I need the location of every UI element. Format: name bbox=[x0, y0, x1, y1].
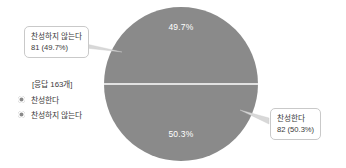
pie-slice-label-agree: 50.3% bbox=[104, 129, 258, 139]
pie-slice-disagree[interactable] bbox=[104, 7, 258, 84]
legend-label-agree: 찬성한다 bbox=[31, 94, 59, 105]
callout-agree-label: 찬성한다 bbox=[277, 113, 314, 124]
legend-swatch-icon bbox=[18, 111, 25, 118]
pie-chart: 49.7% 50.3% bbox=[104, 7, 258, 161]
legend-item-disagree[interactable]: 찬성하지 않는다 bbox=[18, 109, 114, 120]
pie-chart-figure: 49.7% 50.3% 찬성하지 않는다 81 (49.7%) 찬성한다 82 … bbox=[0, 0, 346, 168]
callout-disagree[interactable]: 찬성하지 않는다 81 (49.7%) bbox=[24, 26, 89, 58]
legend-swatch-icon bbox=[18, 96, 25, 103]
chart-legend: [응답 163개] 찬성한다 찬성하지 않는다 bbox=[18, 78, 114, 124]
legend-label-disagree: 찬성하지 않는다 bbox=[31, 109, 82, 120]
legend-total-responses: [응답 163개] bbox=[32, 78, 114, 89]
pie-slice-label-disagree: 49.7% bbox=[104, 22, 258, 32]
legend-item-agree[interactable]: 찬성한다 bbox=[18, 94, 114, 105]
callout-disagree-label: 찬성하지 않는다 bbox=[31, 31, 82, 42]
pie-slice-agree[interactable] bbox=[104, 84, 258, 161]
callout-agree-value: 82 (50.3%) bbox=[277, 124, 314, 135]
callout-disagree-value: 81 (49.7%) bbox=[31, 42, 82, 53]
callout-agree[interactable]: 찬성한다 82 (50.3%) bbox=[270, 108, 321, 140]
